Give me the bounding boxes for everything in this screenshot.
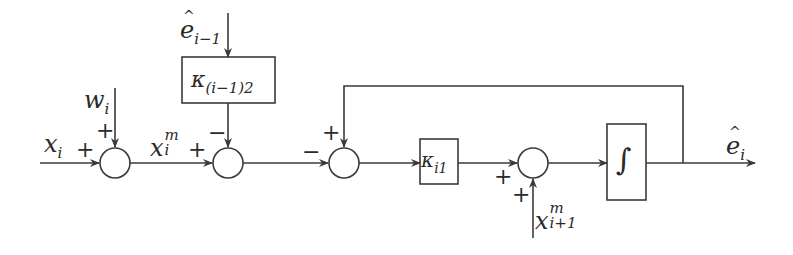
sign-sum4-left: + (494, 166, 512, 188)
sign-sum1-top: + (96, 120, 114, 142)
label-x-m-i-base: x (150, 134, 164, 162)
label-x-i-base: x (44, 130, 58, 158)
sign-sum2-left: + (188, 139, 206, 161)
sign-sum3-top: + (322, 122, 340, 144)
label-e-hat-prev: ei−1 (180, 18, 221, 47)
label-e-hat-i-sub: i (740, 146, 745, 164)
label-x-m-next-base: x (535, 207, 549, 235)
label-x-i: xi (44, 132, 62, 161)
block-diagram (0, 0, 793, 255)
summing-junction-3 (329, 148, 359, 178)
sign-sum1-left: + (76, 139, 94, 161)
summing-junction-1 (100, 148, 130, 178)
sign-sum4-bottom: + (512, 184, 530, 206)
label-x-m-i: xmi (150, 136, 179, 160)
label-w-i: wi (84, 88, 109, 117)
label-x-m-i-sub: i (165, 143, 179, 158)
label-kappa-prev-2-base: κ (191, 67, 205, 92)
label-kappa-prev-2: κ(i−1)2 (191, 69, 254, 96)
label-e-hat-prev-base: e (180, 18, 194, 42)
sign-sum3-left: − (302, 141, 320, 163)
sign-sum2-top: − (208, 122, 226, 144)
summing-junction-2 (213, 148, 243, 178)
label-e-hat-i: ei (726, 134, 745, 163)
label-e-hat-prev-sub: i−1 (194, 30, 221, 48)
integral-symbol: ∫ (616, 142, 632, 177)
summing-junction-4 (518, 148, 548, 178)
label-x-i-sub: i (58, 144, 63, 162)
label-x-m-next-sub: i+1 (550, 216, 577, 231)
label-w-i-sub: i (105, 100, 110, 118)
label-kappa-i1-base: κ (421, 148, 434, 172)
label-kappa-i1-sub: i1 (434, 160, 447, 176)
label-x-m-next: xmi+1 (535, 209, 576, 233)
label-integral: ∫ (616, 145, 632, 175)
label-w-i-base: w (84, 86, 105, 114)
label-e-hat-i-base: e (726, 134, 740, 158)
label-kappa-i1: κi1 (421, 150, 448, 175)
label-kappa-prev-2-sub: (i−1)2 (205, 79, 253, 97)
